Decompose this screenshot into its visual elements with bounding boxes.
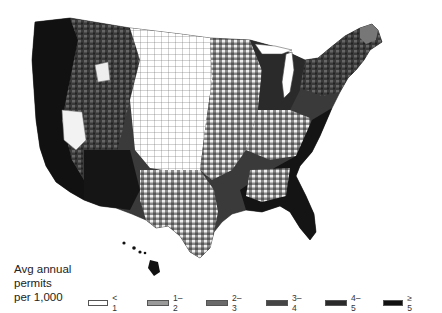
legend-item-ge5: ≥ 5	[383, 293, 417, 313]
legend-item-1-2: 1–2	[147, 293, 185, 313]
legend-item-4-5: 4–5	[325, 293, 363, 313]
legend-item-3-4: 3–4	[266, 293, 304, 313]
legend-swatch	[88, 300, 108, 306]
legend-swatch	[147, 300, 169, 306]
legend-item-lt1: < 1	[88, 293, 122, 313]
legend-swatch	[206, 300, 228, 306]
legend-title: Avg annual permits per 1,000	[14, 262, 71, 304]
hawaii-islands	[122, 241, 160, 276]
legend-swatch	[325, 300, 347, 306]
legend-swatch	[266, 300, 288, 306]
legend-item-2-3: 2–3	[206, 293, 244, 313]
legend-swatch	[383, 300, 403, 306]
